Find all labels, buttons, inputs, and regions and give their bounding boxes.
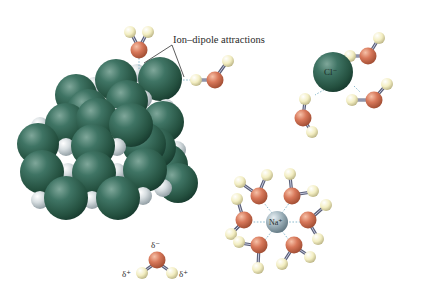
hydrogen-atom xyxy=(284,168,296,180)
hydrogen-atom xyxy=(252,262,264,274)
hydrogen-atom xyxy=(124,26,136,38)
hydrated-chloride-ion: Cl⁻ xyxy=(295,32,394,138)
oxygen-atom xyxy=(207,72,224,89)
water-dipole-key: δ⁻ δ⁺ δ⁺ xyxy=(122,240,188,279)
hydrogen-atom xyxy=(307,185,319,197)
cl-ion-sphere xyxy=(44,176,88,220)
hydrogen-atom xyxy=(299,93,311,105)
hydrogen-atom xyxy=(190,74,202,86)
hydrogen-atom xyxy=(381,78,393,90)
oxygen-atom xyxy=(131,42,148,59)
chloride-label: Cl⁻ xyxy=(324,67,338,77)
hydrogen-atom xyxy=(276,258,288,270)
cl-ion-sphere xyxy=(96,176,140,220)
hydrogen-atom xyxy=(166,267,178,279)
nacl-dissolution-diagram: Ion–dipole attractions Cl⁻ xyxy=(0,0,423,299)
hydrogen-atom xyxy=(373,32,385,44)
hydrogen-atom xyxy=(222,55,234,67)
oxygen-atom xyxy=(149,252,166,269)
hydrogen-atom xyxy=(233,236,245,248)
oxygen-atom xyxy=(286,237,303,254)
hydrogen-atom xyxy=(320,199,332,211)
hydrogen-atom xyxy=(231,193,243,205)
hydrogen-atom xyxy=(346,94,358,106)
hydrogen-atom xyxy=(304,251,316,263)
oxygen-atom xyxy=(284,188,301,205)
nacl-crystal-lattice xyxy=(17,57,198,220)
hydrogen-atom xyxy=(306,126,318,138)
sodium-label: Na⁺ xyxy=(269,218,283,227)
delta-plus-right-label: δ⁺ xyxy=(179,269,188,279)
hydrogen-atom xyxy=(312,233,324,245)
oxygen-atom xyxy=(251,188,268,205)
ion-dipole-label: Ion–dipole attractions xyxy=(173,34,265,45)
hydrogen-atom xyxy=(234,176,246,188)
oxygen-atom xyxy=(295,110,312,127)
water-on-crystal-side xyxy=(183,55,234,89)
oxygen-atom xyxy=(300,212,317,229)
hydrogen-atom xyxy=(261,169,273,181)
hydrated-sodium-ion: Na⁺ xyxy=(225,168,332,274)
hydrogen-atom xyxy=(142,26,154,38)
delta-plus-left-label: δ⁺ xyxy=(122,269,131,279)
hydrogen-atom xyxy=(136,267,148,279)
oxygen-atom xyxy=(366,92,383,109)
delta-minus-label: δ⁻ xyxy=(151,240,160,250)
oxygen-atom xyxy=(236,212,253,229)
oxygen-atom xyxy=(360,48,377,65)
oxygen-atom xyxy=(251,237,268,254)
